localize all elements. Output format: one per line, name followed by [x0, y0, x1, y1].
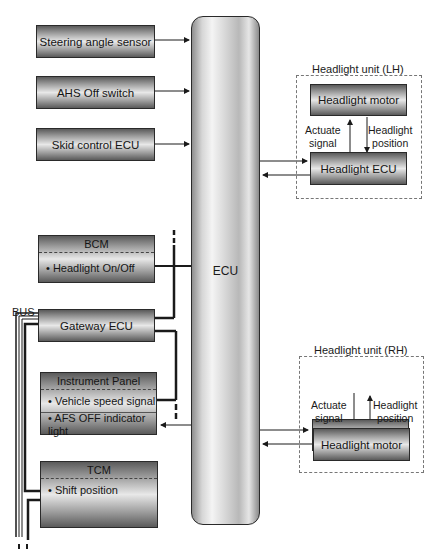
headlight-lh-title: Headlight unit (LH) — [312, 63, 404, 75]
headlight-lh-position-label: Headlight position — [368, 124, 412, 150]
headlight-lh-ecu: Headlight ECU — [310, 152, 407, 185]
instrument-panel-title: Instrument Panel — [41, 373, 156, 390]
ecu-label: ECU — [213, 264, 238, 278]
headlight-rh-title: Headlight unit (RH) — [314, 344, 408, 356]
headlight-lh-motor: Headlight motor — [310, 84, 407, 116]
gateway-ecu-block: Gateway ECU — [38, 309, 155, 342]
headlight-lh-actuate-label: Actuate signal — [305, 124, 341, 150]
headlight-rh-motor: Headlight motor — [313, 428, 410, 461]
bus-label: BUS — [12, 306, 35, 318]
input-label: AHS Off switch — [57, 87, 134, 99]
bcm-block: BCM • Headlight On/Off — [38, 235, 155, 283]
bcm-title: BCM — [39, 236, 154, 253]
gateway-label: Gateway ECU — [60, 320, 133, 332]
headlight-rh-position-label: Headlight position — [373, 399, 417, 425]
ecu-label: Headlight ECU — [320, 163, 396, 175]
tcm-item: • Shift position — [41, 479, 157, 501]
instrument-panel-item-speed: • Vehicle speed signal — [41, 390, 156, 413]
input-skid-control-ecu: Skid control ECU — [36, 128, 155, 161]
tcm-block: TCM • Shift position — [40, 461, 158, 528]
motor-label: Headlight motor — [321, 439, 402, 451]
headlight-rh-actuate-label: Actuate signal — [311, 399, 347, 425]
input-label: Steering angle sensor — [40, 36, 152, 48]
input-ahs-off-switch: AHS Off switch — [36, 76, 155, 109]
input-steering-angle-sensor: Steering angle sensor — [36, 25, 155, 58]
central-ecu: ECU — [191, 16, 260, 525]
instrument-panel-block: Instrument Panel • Vehicle speed signal … — [40, 372, 157, 435]
bcm-item: • Headlight On/Off — [39, 253, 154, 283]
instrument-panel-item-afs: • AFS OFF indicator light — [41, 413, 156, 436]
tcm-title: TCM — [41, 462, 157, 479]
input-label: Skid control ECU — [52, 139, 140, 151]
motor-label: Headlight motor — [318, 94, 399, 106]
